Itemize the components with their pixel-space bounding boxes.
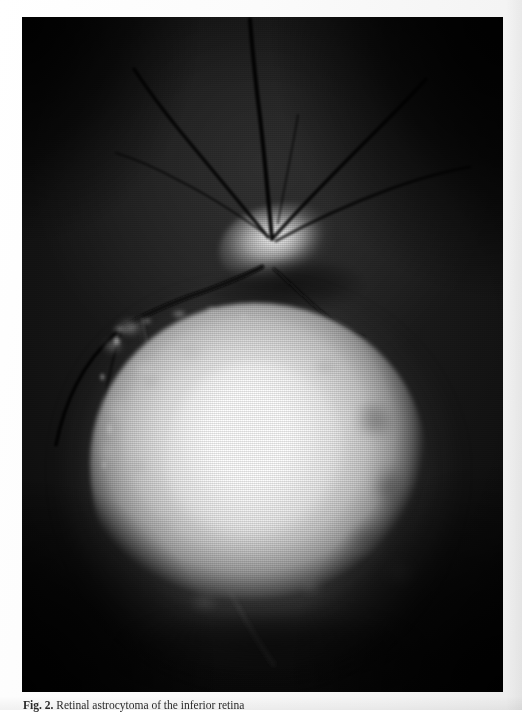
fundus-photograph	[22, 17, 503, 692]
page-edge-shading-right	[506, 0, 522, 710]
page-edge-shading-bottom	[0, 696, 522, 710]
halftone-screen	[22, 17, 503, 692]
